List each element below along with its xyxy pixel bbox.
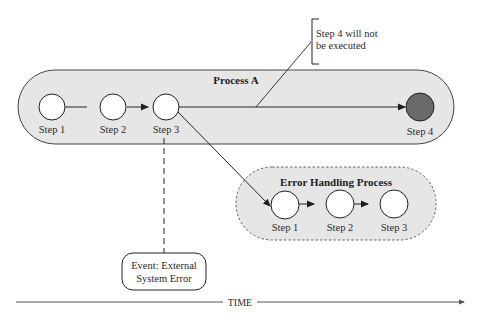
error-step-1: Step 1 — [271, 191, 299, 233]
step-label: Step 1 — [272, 222, 299, 233]
callout-line-2: be executed — [316, 40, 367, 51]
event-line-1: Event: External — [131, 260, 197, 271]
time-axis-label: TIME — [228, 297, 252, 308]
process-a-step-1: Step 1 — [39, 94, 66, 135]
step-label: Step 2 — [327, 222, 354, 233]
process-a-step-3: Step 3 — [153, 94, 180, 135]
error-step-3: Step 3 — [380, 190, 408, 233]
error-step-2: Step 2 — [326, 190, 354, 233]
step-label: Step 4 — [407, 126, 434, 137]
step-label: Step 2 — [100, 124, 127, 135]
process-a-step-2: Step 2 — [100, 94, 127, 135]
process-a-step-4-not-executed: Step 4 — [406, 93, 434, 137]
step-label: Step 1 — [39, 124, 66, 135]
step-label: Step 3 — [153, 124, 180, 135]
process-diagram: Process A Error Handling Process Step 4 … — [0, 0, 479, 325]
error-process-title: Error Handling Process — [280, 176, 393, 188]
step-label: Step 3 — [381, 222, 408, 233]
process-a-title: Process A — [213, 74, 258, 86]
time-axis: TIME — [16, 297, 464, 308]
event-box: Event: External System Error — [122, 253, 206, 290]
callout-line-1: Step 4 will not — [316, 28, 378, 39]
event-line-2: System Error — [136, 273, 192, 284]
